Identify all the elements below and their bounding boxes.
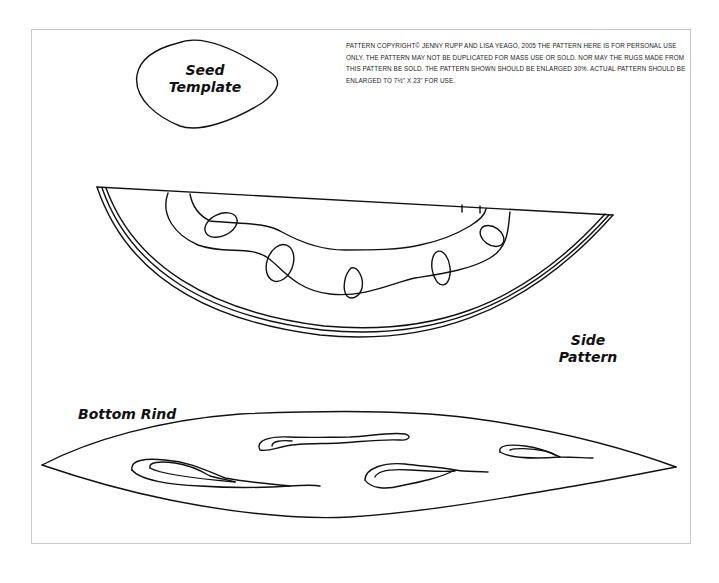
side-pattern-label: Side Pattern <box>548 332 628 366</box>
pattern-drawing <box>0 0 719 583</box>
seed-label-line1: Seed <box>160 62 250 79</box>
side-label-line2: Pattern <box>548 349 628 366</box>
bottom-rind-shape <box>42 411 676 517</box>
side-pattern-shape <box>97 187 613 337</box>
seed-template-label: Seed Template <box>160 62 250 96</box>
copyright-notice: PATTERN COPYRIGHT© JENNY RUPP AND LISA Y… <box>346 40 686 86</box>
side-label-line1: Side <box>548 332 628 349</box>
seed-label-line2: Template <box>160 79 250 96</box>
bottom-rind-label: Bottom Rind <box>78 406 198 423</box>
